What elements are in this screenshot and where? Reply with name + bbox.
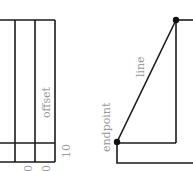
endpoint-dot xyxy=(114,139,120,145)
offset-label: offset xyxy=(40,86,53,118)
bottom-label-b: 0 xyxy=(40,165,53,171)
line-label: line xyxy=(134,56,147,77)
endpoint-label: endpoint xyxy=(100,102,113,152)
diagonal-line xyxy=(117,20,176,142)
top-point-dot xyxy=(173,17,179,23)
diagram-canvas: offset 10 0 0 line endpoint xyxy=(0,0,193,171)
bracket-line xyxy=(117,142,193,163)
right-panel xyxy=(117,20,193,163)
bottom-label-a: 0 xyxy=(22,165,35,171)
tick-10-label: 10 xyxy=(60,144,73,158)
